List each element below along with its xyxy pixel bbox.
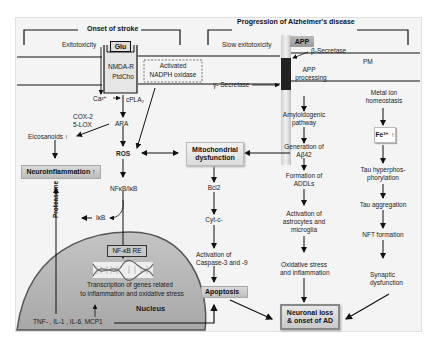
outcome-line2: & onset of AD	[287, 317, 333, 325]
outcome-line1: Neuronal loss	[287, 309, 333, 317]
bcl2-label: Bcl2	[204, 184, 224, 192]
beta-secretase-label: β-Secretase	[311, 47, 346, 55]
mitochondrial-dysfunction-box: Mitochondrial dysfunction	[186, 142, 244, 166]
astro-line3: microglia	[282, 226, 326, 234]
nft-label: NFT formation	[360, 231, 406, 239]
caspase-line1: Activation of	[196, 251, 231, 259]
app-processing-line1: APP	[295, 66, 323, 74]
neuroinflammation-box: Neuroinflammation ↑	[21, 165, 101, 179]
ros-label: ROS	[116, 150, 130, 158]
tau-aggregation-label: Tau aggregation	[358, 201, 408, 209]
mito-line1: Mitochondrial	[192, 146, 238, 154]
cytokines-label: TNF- , IL-1 , IL-6, MCP1	[33, 318, 103, 326]
app-processing-line2: processing	[293, 74, 329, 82]
metal-line2: homeostasis	[362, 97, 406, 105]
ara-label: ARA	[115, 120, 128, 128]
header-alzheimers: Progression of Alzheimer's disease	[234, 18, 358, 25]
synaptic-line1: Synaptic	[370, 271, 395, 279]
nadph-line1: Activated	[144, 62, 202, 70]
header-onset-stroke: Onset of stroke	[84, 25, 141, 32]
ptdcho-label: PtdCho	[108, 73, 138, 81]
caspase-line2: Caspase-3 and -9	[196, 259, 248, 267]
app-label: APP	[290, 36, 314, 47]
apoptosis-box: Apoptosis	[201, 286, 248, 298]
amyloid-line1: Amyloidogenic	[282, 111, 326, 119]
amyloid-line2: pathway	[282, 119, 326, 127]
ikb-label: IκB	[96, 214, 105, 222]
cox2-label: COX-2	[73, 113, 93, 121]
nucleus-label: Nucleus	[136, 305, 165, 313]
mito-line2: dysfunction	[195, 154, 235, 162]
cytc-label: Cyt-c-	[202, 216, 226, 224]
synaptic-line2: dysfunction	[370, 279, 403, 287]
abeta-line2: Aβ42	[284, 151, 324, 159]
tau-line1: Tau hyperphos-	[360, 166, 406, 174]
transcription-line2: to inflammation and oxidative stress	[74, 290, 190, 298]
metal-line1: Metal ion	[365, 89, 403, 97]
nfkb-re-box: NF-κB RE	[107, 245, 147, 257]
transcription-line1: Transcription of genes related	[80, 281, 180, 289]
abeta-line1: Generation of	[284, 143, 324, 151]
addl-line2: ADDLs	[284, 180, 324, 188]
ox-line1: Oxidative stress	[280, 261, 328, 269]
nmda-label: NMDA-R	[104, 63, 138, 71]
nadph-line2: NADPH oxidase	[144, 71, 202, 79]
cpla2-label: cPLA₂	[126, 96, 144, 104]
proteasome-label: Proteasome	[52, 181, 59, 218]
astro-line1: Activation of	[282, 210, 326, 218]
fe-box: Fe³⁺ ↑	[374, 127, 396, 143]
tau-line2: phorylation	[360, 174, 406, 182]
astro-line2: astrocytes and	[282, 218, 326, 226]
excitotoxicity-label: Exitotoxicity	[62, 41, 96, 49]
eicosanoids-label: Eicosanoids ↑	[28, 133, 68, 141]
pm-label: PM	[363, 58, 373, 66]
neuronal-loss-box: Neuronal loss & onset of AD	[280, 304, 340, 330]
addl-line1: Formation of	[284, 172, 324, 180]
nfkb-label: NFκB/IκB	[110, 185, 137, 193]
slow-excitotoxicity-label: Slow exitotoxicity	[222, 41, 272, 49]
ca-label: Ca²⁺	[93, 95, 107, 103]
5lox-label: 5-LOX	[73, 121, 92, 129]
gamma-secretase-label: γ- Secretase	[213, 81, 250, 89]
glu-label: Glu	[110, 41, 131, 52]
ox-line2: and inflammation	[280, 269, 328, 277]
